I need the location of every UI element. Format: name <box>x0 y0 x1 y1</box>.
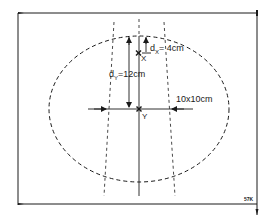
point-y-label: Y <box>142 113 147 121</box>
point-x-label: X <box>141 55 146 63</box>
outer-frame <box>18 10 257 215</box>
dx-label: dX= 4cm <box>150 44 184 55</box>
dy-label: dY=12cm <box>109 70 145 81</box>
dx-label-value: = 4cm <box>159 43 184 53</box>
field-size-label: 10x10cm <box>176 95 213 104</box>
diagram-canvas: dX= 4cm X dY=12cm 10x10cm Y 57K <box>0 0 273 220</box>
dy-label-value: =12cm <box>118 69 145 79</box>
frame-corner-marks <box>18 10 259 215</box>
corner-code-label: 57K <box>244 197 253 202</box>
diagram-svg <box>0 0 273 220</box>
